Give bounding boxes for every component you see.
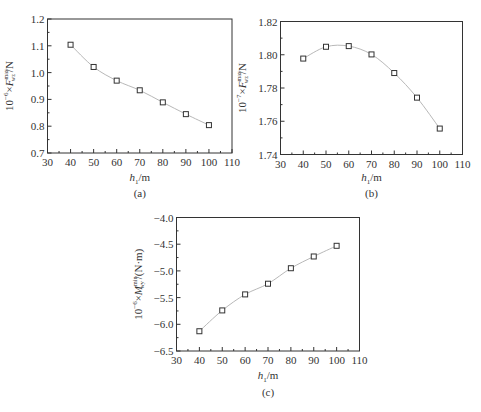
x-tick-label: 40 (194, 354, 206, 366)
y-tick-label: 0.8 (31, 120, 45, 132)
x-tick-label: 80 (389, 158, 401, 170)
y-axis: 0.70.80.91.01.11.2 (31, 13, 52, 159)
x-tick-label: 60 (343, 158, 355, 170)
data-point-square (392, 71, 397, 76)
y-tick-label: −5.5 (154, 292, 174, 304)
y-tick-label: 1.76 (258, 115, 278, 127)
data-point-square (437, 126, 442, 131)
x-tick-label: 70 (263, 354, 275, 366)
y-tick-label: 1.80 (258, 49, 278, 61)
data-point-square (220, 308, 225, 313)
y-axis-title: 10−7×Fmaxwz/N (235, 63, 249, 113)
x-tick-label: 100 (201, 156, 218, 168)
y-tick-label: 0.9 (31, 93, 45, 105)
x-tick-label: 90 (412, 158, 424, 170)
data-point-square (91, 64, 96, 69)
x-tick-label: 50 (321, 158, 333, 170)
x-tick-label: 50 (88, 156, 100, 168)
figure-canvas: 304050607080901001100.70.80.91.01.11.2h1… (0, 0, 481, 412)
x-tick-label: 70 (134, 156, 146, 168)
y-axis-title: 10−6×Mminwy/(N·m) (131, 248, 145, 319)
x-tick-label: 90 (308, 354, 320, 366)
data-point-square (114, 78, 119, 83)
series-line (303, 45, 440, 128)
x-tick-label: 110 (454, 158, 471, 170)
x-tick-label: 90 (180, 156, 192, 168)
y-tick-label: 1.74 (258, 149, 278, 161)
data-point-square (311, 254, 316, 259)
chart-caption: (b) (365, 187, 378, 200)
x-tick-label: 80 (157, 156, 169, 168)
x-axis-title: h1/m (361, 171, 382, 186)
chart-panel-c: 30405060708090100110−6.5−6.0−5.5−5.0−4.5… (131, 212, 369, 400)
x-axis-title: h1/m (258, 369, 279, 384)
y-tick-label: −4.0 (154, 212, 174, 224)
x-tick-label: 110 (224, 156, 241, 168)
data-point-square (324, 44, 329, 49)
y-tick-label: 0.7 (31, 147, 45, 159)
x-tick-label: 80 (285, 354, 297, 366)
data-point-square (183, 112, 188, 117)
x-axis: 30405060708090100110 (42, 149, 241, 168)
y-tick-label: −5.0 (154, 265, 174, 277)
x-tick-label: 110 (351, 354, 368, 366)
x-tick-label: 70 (366, 158, 378, 170)
data-point-square (288, 266, 293, 271)
plot-frame (281, 22, 463, 155)
data-point-square (206, 123, 211, 128)
y-tick-label: −6.5 (154, 345, 174, 357)
x-axis-title: h1/m (129, 171, 150, 186)
y-axis-title: 10−6×Fmaxwz/N (2, 61, 16, 111)
y-tick-label: 1.2 (31, 13, 45, 25)
data-point-square (266, 281, 271, 286)
chart-panel-b: 304050607080901001101.741.761.781.801.82… (235, 16, 472, 201)
data-point-square (346, 44, 351, 49)
data-point-square (68, 42, 73, 47)
y-tick-label: 1.1 (31, 40, 45, 52)
x-tick-label: 40 (65, 156, 77, 168)
y-tick-label: 1.0 (31, 67, 45, 79)
chart-caption: (a) (134, 187, 147, 200)
plot-frame (48, 19, 233, 153)
x-tick-label: 100 (432, 158, 449, 170)
data-point-square (369, 52, 374, 57)
x-tick-label: 40 (298, 158, 310, 170)
data-point-square (243, 292, 248, 297)
y-tick-label: 1.82 (258, 16, 277, 28)
x-tick-label: 60 (111, 156, 123, 168)
data-point-square (415, 95, 420, 100)
data-point-square (301, 56, 306, 61)
y-tick-label: −4.5 (154, 238, 174, 250)
chart-caption: (c) (262, 386, 275, 399)
data-point-square (137, 88, 142, 93)
x-axis: 30405060708090100110 (171, 347, 368, 366)
x-tick-label: 50 (217, 354, 229, 366)
data-point-square (334, 243, 339, 248)
data-point-square (160, 100, 165, 105)
x-axis: 30405060708090100110 (275, 151, 471, 170)
y-tick-label: 1.78 (258, 82, 278, 94)
x-tick-label: 60 (240, 354, 252, 366)
x-tick-label: 100 (328, 354, 345, 366)
y-tick-label: −6.0 (154, 318, 174, 330)
chart-panel-a: 304050607080901001100.70.80.91.01.11.2h1… (2, 13, 241, 200)
data-point-square (197, 329, 202, 334)
